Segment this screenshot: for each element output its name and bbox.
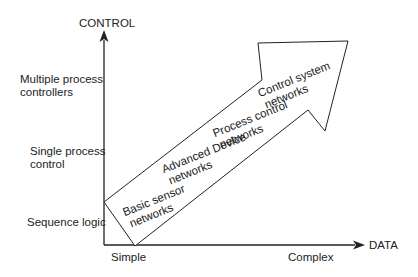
y-level-label-line2: controllers xyxy=(20,86,103,99)
diagram-canvas xyxy=(0,0,418,277)
y-level-label-line2: control xyxy=(30,158,105,171)
x-tick-simple: Simple xyxy=(111,251,146,264)
y-level-label-line1: Multiple process xyxy=(20,73,103,86)
x-tick-complex: Complex xyxy=(288,251,333,264)
y-level-label-multiple-process: Multiple process controllers xyxy=(20,73,103,99)
y-level-label-line1: Single process xyxy=(30,145,105,158)
y-level-label-single-process: Single process control xyxy=(30,145,105,171)
x-axis-title: DATA xyxy=(369,239,398,252)
y-level-label-sequence-logic: Sequence logic xyxy=(27,216,106,229)
y-axis-title: CONTROL xyxy=(79,17,135,30)
